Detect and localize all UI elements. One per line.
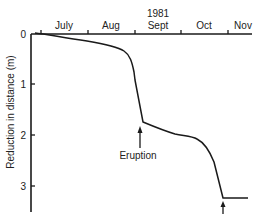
x-tick-label-nov: Nov (234, 20, 252, 31)
y-tick-labels: 0 1 2 3 (20, 29, 26, 192)
chart-canvas: July Aug Sept Oct Nov 1981 0 1 2 3 Reduc… (0, 0, 269, 222)
second-arrow-head-icon (221, 201, 226, 207)
x-axis-year-label: 1981 (147, 8, 170, 19)
x-tick-label-sept: Sept (148, 20, 169, 31)
x-tick-labels: July Aug Sept Oct Nov 1981 (55, 8, 252, 31)
x-tick-label-july: July (55, 20, 73, 31)
eruption-arrow-head-icon (138, 126, 143, 133)
x-tick-label-aug: Aug (102, 20, 120, 31)
reduction-distance-chart: July Aug Sept Oct Nov 1981 0 1 2 3 Reduc… (0, 0, 269, 222)
axes (31, 34, 252, 212)
y-tick-label-3: 3 (20, 181, 26, 192)
data-line-reduction (35, 33, 248, 198)
second-event-annotation (221, 201, 226, 214)
y-tick-label-0: 0 (20, 29, 26, 40)
y-axis-title: Reduction in distance (m) (5, 55, 16, 168)
y-tick-label-2: 2 (20, 130, 26, 141)
eruption-annotation: Eruption (119, 126, 156, 161)
x-tick-label-oct: Oct (196, 20, 212, 31)
y-tick-label-1: 1 (20, 79, 26, 90)
eruption-label: Eruption (119, 150, 156, 161)
